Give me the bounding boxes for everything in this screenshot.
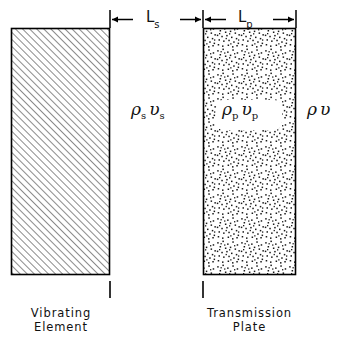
caption-vibrating-element-line2: Element: [8, 320, 114, 334]
extension-ticks: [110, 281, 203, 298]
figure-canvas: Ls Lp ρsυs ρpυp ρυ Vibrating Element Tra…: [0, 0, 344, 345]
caption-transmission-plate-line2: Plate: [186, 320, 313, 334]
dimension-label-Ls-sub: s: [154, 19, 159, 30]
caption-vibrating-element: Vibrating Element: [8, 306, 114, 334]
transmission-plate-block: [204, 29, 296, 275]
rho-s-symbol: ρ: [131, 99, 141, 119]
upsilon-symbol: υ: [320, 99, 330, 119]
rho-s-subscript: s: [141, 110, 146, 121]
rho-symbol: ρ: [307, 99, 317, 119]
dimension-label-Lp: Lp: [238, 10, 253, 28]
rho-p-symbol: ρ: [222, 99, 232, 119]
rho-p-subscript: p: [232, 110, 238, 121]
symbol-far-medium: ρυ: [307, 101, 330, 118]
upsilon-p-symbol: υ: [241, 99, 251, 119]
symbol-plate-medium: ρpυp: [222, 101, 258, 118]
symbol-source-medium: ρsυs: [131, 101, 165, 118]
schematic-drawing: [0, 0, 344, 345]
caption-transmission-plate-line1: Transmission: [186, 306, 313, 320]
dimension-label-Lp-sub: p: [246, 19, 252, 30]
upsilon-p-subscript: p: [252, 110, 258, 121]
upsilon-s-symbol: υ: [149, 99, 159, 119]
upsilon-s-subscript: s: [159, 110, 164, 121]
caption-vibrating-element-line1: Vibrating: [8, 306, 114, 320]
vibrating-element-block: [12, 29, 110, 275]
dimension-label-Ls: Ls: [146, 10, 160, 28]
caption-transmission-plate: Transmission Plate: [186, 306, 313, 334]
